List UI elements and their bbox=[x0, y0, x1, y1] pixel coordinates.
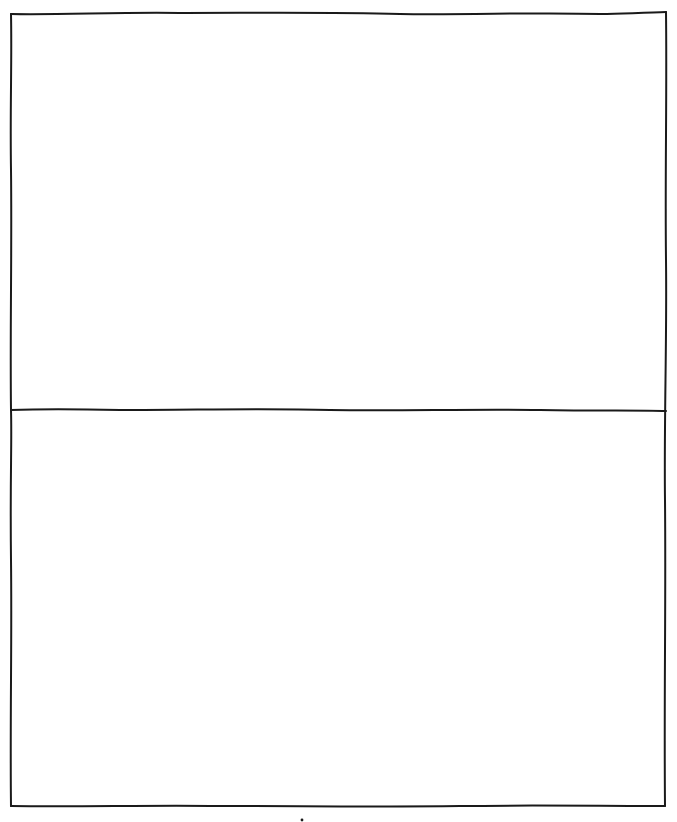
stray-dot-mark bbox=[301, 819, 304, 822]
panel-divider bbox=[11, 409, 666, 411]
top-panel bbox=[12, 15, 665, 409]
bottom-panel bbox=[12, 412, 665, 805]
frame-bottom-edge bbox=[11, 806, 665, 807]
frame-top-edge bbox=[11, 12, 666, 14]
